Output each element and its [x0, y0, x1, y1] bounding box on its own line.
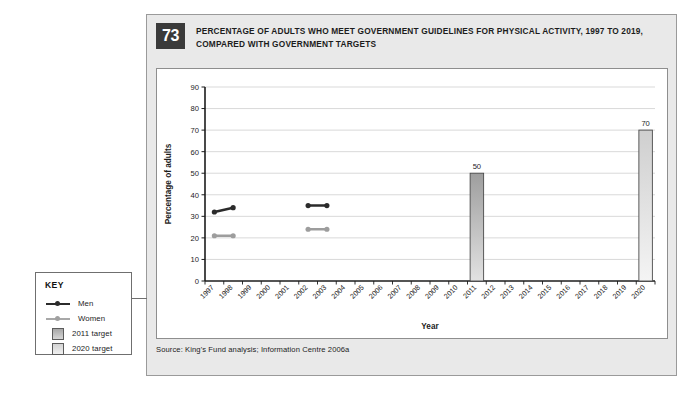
bar-value-label: 70 [641, 119, 649, 128]
chart-x-axis-label: Year [421, 322, 439, 331]
x-tick-label: 2001 [273, 283, 291, 301]
x-tick-label: 2019 [611, 283, 629, 301]
chart-svg: 0102030405060708090 19971998199920002001… [157, 69, 667, 338]
figure-panel: 73 PERCENTAGE OF ADULTS WHO MEET GOVERNM… [146, 14, 677, 376]
figure-number-badge: 73 [156, 23, 185, 49]
chart-bar [639, 130, 653, 281]
key-item-label-men: Men [78, 299, 93, 308]
y-tick-label: 30 [191, 212, 199, 221]
y-tick-label: 20 [191, 234, 199, 243]
figure-screenshot: 73 PERCENTAGE OF ADULTS WHO MEET GOVERNM… [0, 0, 691, 395]
chart-x-tick-labels: 1997199819992000200120022003200420052006… [198, 283, 647, 301]
x-tick-label: 2002 [292, 283, 310, 301]
x-tick-label: 2006 [367, 283, 385, 301]
key-item-2011-target: 2011 target [45, 326, 131, 341]
x-tick-label: 1999 [236, 283, 254, 301]
chart-data-labels: 5070 [473, 119, 650, 171]
chart-y-axis-label: Percentage of adults [164, 143, 173, 224]
figure-source-note: Source: King's Fund analysis; Informatio… [156, 345, 668, 354]
target-2020-swatch-icon [52, 343, 64, 355]
x-tick-label: 2013 [498, 283, 516, 301]
chart-line-series [212, 203, 330, 238]
x-tick-label: 2014 [517, 283, 535, 301]
x-tick-label: 2000 [254, 283, 272, 301]
y-tick-label: 40 [191, 191, 199, 200]
key-item-men: Men [45, 296, 131, 311]
chart-bars [470, 130, 652, 281]
chart-data-point [306, 227, 311, 232]
x-tick-label: 2012 [479, 283, 497, 301]
women-line-swatch-icon [45, 314, 71, 324]
y-tick-label: 70 [191, 126, 199, 135]
y-tick-label: 0 [195, 277, 199, 286]
x-tick-label: 2015 [536, 283, 554, 301]
key-item-2020-target: 2020 target [45, 341, 131, 356]
chart-key-box: KEY Men Women 2011 target 2020 target [35, 272, 132, 355]
x-tick-label: 2016 [554, 283, 572, 301]
key-item-label-2011-target: 2011 target [72, 329, 112, 338]
chart-axes [202, 87, 656, 285]
x-tick-label: 2020 [629, 283, 647, 301]
chart-data-point [231, 233, 236, 238]
x-tick-label: 2009 [423, 283, 441, 301]
key-item-label-women: Women [78, 314, 105, 323]
y-tick-label: 90 [191, 83, 199, 92]
y-tick-label: 50 [191, 169, 199, 178]
chart-bar [470, 173, 484, 281]
x-tick-label: 2017 [573, 283, 591, 301]
y-tick-label: 60 [191, 148, 199, 157]
men-line-swatch-icon [45, 299, 71, 309]
bar-value-label: 50 [473, 162, 481, 171]
figure-header: 73 PERCENTAGE OF ADULTS WHO MEET GOVERNM… [147, 15, 676, 67]
figure-title: PERCENTAGE OF ADULTS WHO MEET GOVERNMENT… [196, 23, 664, 50]
chart-data-point [212, 233, 217, 238]
chart-line [214, 208, 233, 212]
key-connector-line [132, 298, 147, 299]
chart-y-tick-labels: 0102030405060708090 [191, 83, 199, 286]
y-tick-label: 10 [191, 255, 199, 264]
chart-data-point [212, 209, 217, 214]
x-tick-label: 2007 [386, 283, 404, 301]
key-item-women: Women [45, 311, 131, 326]
chart-gridlines [205, 87, 655, 259]
x-tick-label: 1998 [217, 283, 235, 301]
plot-area: 0102030405060708090 19971998199920002001… [156, 68, 668, 339]
x-tick-label: 2010 [442, 283, 460, 301]
key-title: KEY [45, 280, 131, 290]
x-tick-label: 1997 [198, 283, 216, 301]
chart-data-point [231, 205, 236, 210]
chart-data-point [324, 227, 329, 232]
y-tick-label: 80 [191, 104, 199, 113]
chart-data-point [306, 203, 311, 208]
x-tick-label: 2011 [461, 283, 478, 300]
key-item-label-2020-target: 2020 target [72, 344, 113, 353]
target-2011-swatch-icon [52, 328, 64, 340]
x-tick-label: 2003 [311, 283, 329, 301]
x-tick-label: 2005 [348, 283, 366, 301]
x-tick-label: 2008 [404, 283, 422, 301]
chart-data-point [324, 203, 329, 208]
x-tick-label: 2004 [329, 283, 347, 301]
x-tick-label: 2018 [592, 283, 610, 301]
